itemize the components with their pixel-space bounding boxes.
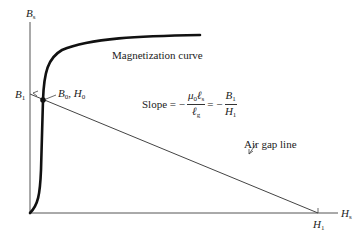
bh-diagram: Bs Hs B1 H1 B0, H0 Magnetization curve A… [0, 0, 363, 235]
magnetization-curve [30, 35, 200, 213]
magnetization-curve-label: Magnetization curve [112, 50, 203, 61]
slope-equals: = − [207, 99, 222, 110]
x-axis-label: Hs [341, 208, 352, 221]
slope-fraction-left: μ0ℓs ℓg [187, 90, 205, 119]
operating-point-leader [46, 95, 56, 99]
h1-label: H1 [313, 219, 324, 232]
operating-point-label: B0, H0 [58, 88, 85, 101]
slope-prefix: Slope = − [142, 99, 185, 110]
b1-label: B1 [15, 89, 25, 102]
air-gap-line-label: Air gap line [244, 139, 297, 150]
slope-formula: Slope = − μ0ℓs ℓg = − B1 H1 [142, 90, 239, 119]
operating-point [40, 97, 46, 103]
slope-fraction-right: B1 H1 [225, 90, 237, 119]
y-axis-label: Bs [26, 8, 35, 21]
